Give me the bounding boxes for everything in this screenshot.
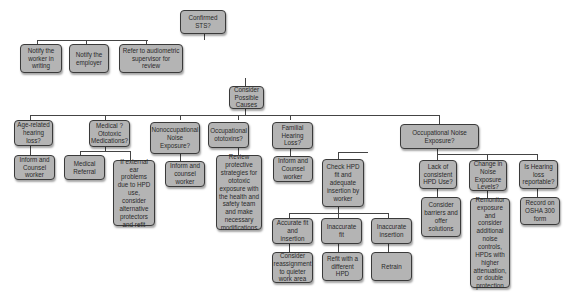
node-review-ototoxic: Review protective strategies for ototoxi… bbox=[216, 155, 262, 230]
connector bbox=[289, 243, 290, 252]
node-change-noise: Change in Noise Exposure Levels? bbox=[469, 160, 507, 191]
node-inaccurate-fit: Inaccurate fit bbox=[321, 218, 362, 244]
connector bbox=[290, 115, 291, 120]
node-notify-worker: Notify the worker in writing bbox=[20, 44, 62, 73]
node-familial: Familial Hearing Loss? bbox=[272, 122, 313, 149]
node-retrain: Retrain bbox=[371, 252, 412, 281]
node-confirmed-sts: Confirmed STS? bbox=[180, 10, 226, 34]
node-age-related: Age-related hearing loss? bbox=[14, 120, 53, 146]
node-lack-hpd: Lack of consistent HPD Use? bbox=[419, 160, 457, 189]
connector bbox=[338, 243, 339, 252]
node-check-hpd: Check HPD fit and adequate insertion by … bbox=[322, 159, 364, 207]
node-nonoccupational: Nonoccupational Noise Exposure? bbox=[150, 122, 200, 154]
connector bbox=[439, 115, 440, 124]
node-refit: Refit with a different HPD bbox=[322, 252, 363, 281]
connector bbox=[37, 40, 148, 41]
connector bbox=[537, 188, 538, 197]
node-external-ear: If external ear problems due to HPD use,… bbox=[113, 160, 155, 226]
connector bbox=[30, 145, 31, 155]
connector bbox=[30, 115, 440, 116]
connector bbox=[388, 243, 389, 252]
node-medical: Medical ? Ototoxic Medications? bbox=[89, 120, 130, 147]
connector bbox=[338, 152, 339, 159]
connector bbox=[238, 115, 239, 120]
node-notify-employer: Notify the employer bbox=[69, 44, 109, 73]
node-occupational-ototoxins: Occupational ototoxins? bbox=[208, 122, 249, 148]
node-osha: Record on OSHA 300 form bbox=[520, 197, 560, 225]
connector bbox=[180, 115, 181, 120]
connector bbox=[80, 151, 131, 152]
node-nonocc-inform: Inform and counsel worker bbox=[165, 161, 205, 187]
node-remonitor: Remonitor exposure and consider addition… bbox=[470, 198, 510, 288]
node-reassignment: Consider reassignment to quieter work ar… bbox=[272, 252, 313, 283]
node-occupational-noise: Occupational Noise Exposure? bbox=[400, 124, 479, 149]
connector bbox=[437, 188, 438, 197]
node-inaccurate-insertion: Inaccurate insertion bbox=[371, 218, 412, 244]
node-medical-referral: Medical Referral bbox=[64, 155, 105, 180]
node-reportable: Is Hearing loss reportable? bbox=[519, 160, 558, 189]
node-refer-supervisor: Refer to audiometric supervisor for revi… bbox=[119, 44, 183, 73]
node-barriers: Consider barriers and offer solutions bbox=[421, 197, 461, 237]
node-familial-inform: Inform and Counsel worker bbox=[273, 156, 313, 182]
connector bbox=[338, 152, 368, 153]
node-age-inform: Inform and Counsel worker bbox=[14, 155, 55, 180]
node-consider-causes: Consider Possible Causes bbox=[229, 86, 264, 109]
node-accurate-fit: Accurate fit and insertion bbox=[272, 218, 313, 244]
connector bbox=[290, 148, 291, 156]
